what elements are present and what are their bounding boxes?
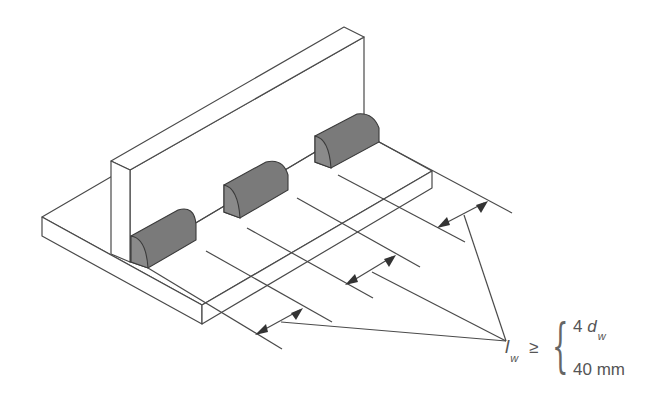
weld-length-symbol: lw (505, 336, 518, 360)
condition-minimum-length: 40 mm (573, 360, 625, 380)
condition-diameter: 4 dw (573, 317, 606, 338)
dimension-arrow-1 (255, 308, 303, 335)
curly-brace-icon: { (552, 317, 569, 375)
dimension-arrow-3 (437, 201, 488, 228)
greater-equal-sign: ≥ (529, 338, 538, 358)
